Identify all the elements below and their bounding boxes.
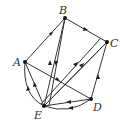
node-e xyxy=(42,104,46,108)
arrow-icon xyxy=(96,74,100,79)
arrow-icon xyxy=(66,100,71,104)
label-d: D xyxy=(92,101,102,114)
arrow-icon xyxy=(26,86,30,91)
arrow-icon xyxy=(48,60,52,65)
node-a xyxy=(23,60,27,64)
label-a: A xyxy=(12,56,21,69)
arrow-icon xyxy=(68,106,73,110)
directed-graph: A B C D E xyxy=(0,0,121,127)
label-b: B xyxy=(58,4,67,17)
labels: A B C D E xyxy=(12,4,119,122)
arrow-icon xyxy=(55,77,60,81)
node-c xyxy=(105,40,109,44)
nodes xyxy=(23,16,109,108)
edges xyxy=(25,18,107,110)
edge-a-to-b xyxy=(25,18,65,62)
label-c: C xyxy=(110,37,119,50)
label-e: E xyxy=(33,109,42,122)
